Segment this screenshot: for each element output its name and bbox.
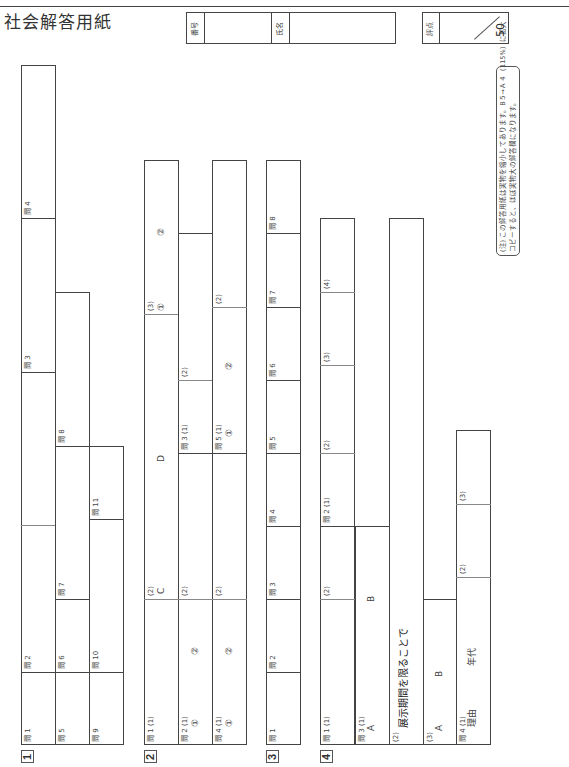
s4-q3-1-b-label: B: [367, 596, 376, 602]
s1-q10-label: 問 10: [93, 651, 100, 669]
s2-q5-2-field[interactable]: [212, 160, 247, 307]
s4-q2-2-label: (2): [324, 440, 331, 450]
s1-q4-label: 問 4: [25, 201, 32, 215]
s3-q6-label: 問 6: [270, 363, 277, 377]
s4-q3-2-label: (2): [393, 732, 400, 742]
s2-q4-2-field[interactable]: [212, 453, 247, 599]
s4-q3-1-field[interactable]: [355, 526, 390, 745]
s1-q2-field[interactable]: [21, 372, 56, 672]
s2-q5-2-label: (2): [216, 294, 223, 304]
s2-q4-1-label: 問 4 (1): [216, 716, 223, 742]
note-line-1: (注) この解答用紙は実物を縮小してあります。B５→Ａ４（115%）に拡大: [500, 21, 507, 252]
s2-q2-2-label: (2): [182, 586, 189, 596]
s2-q1-2-label: (2): [148, 586, 155, 596]
s2-q1-3-a-label: ①: [157, 303, 166, 311]
page-title: 社会解答用紙: [4, 8, 112, 33]
number-field[interactable]: [204, 12, 272, 44]
s4-q3-2-prompt: 展示期間を限ることで: [399, 628, 409, 728]
s4-q1-1-label: 問 1 (1): [324, 716, 331, 742]
s2-q2-2-field[interactable]: [178, 453, 213, 599]
number-label: 番号: [192, 22, 199, 36]
top-rule: [0, 6, 569, 7]
s2-q5-1-label: 問 5 (1): [216, 424, 223, 450]
s1-q7-field[interactable]: [55, 446, 90, 599]
s2-q5-1-a-label: ①: [225, 429, 234, 437]
s4-q4-3-label: (3): [460, 491, 467, 501]
s3-q3-label: 問 3: [270, 582, 277, 596]
s1-q1-label: 問 1: [25, 728, 32, 742]
s4-q3-3-label: (3): [427, 732, 434, 742]
s1-q10-field[interactable]: [89, 519, 124, 672]
s2-q1-2-d-label: D: [157, 455, 166, 462]
s2-q1-1-label: 問 1 (1): [148, 716, 155, 742]
s1-q3-label: 問 3: [25, 355, 32, 369]
s2-q4-1-a-label: ①: [225, 719, 234, 727]
s4-q3-3-a-label: A: [435, 725, 444, 731]
section-4-badge: 4: [320, 750, 333, 763]
s1-q8-field[interactable]: [55, 292, 90, 446]
s3-q5-label: 問 5: [270, 436, 277, 450]
s2-q1-3-label: (3): [148, 301, 155, 311]
s2-q1-2-c-label: C: [157, 588, 166, 594]
s1-q6-label: 問 6: [59, 655, 66, 669]
s3-q2-label: 問 2: [270, 655, 277, 669]
s1-q7-label: 問 7: [59, 582, 66, 596]
s1-q9-label: 問 9: [93, 728, 100, 742]
s3-q4-label: 問 4: [270, 509, 277, 523]
s4-q4-1-reason-label: 理由: [468, 709, 477, 727]
s4-q4-2-label: (2): [460, 564, 467, 574]
section-3-badge: 3: [266, 750, 279, 763]
note-line-2: コピーすると、ほぼ実物大の解答欄になります。: [510, 99, 517, 252]
s2-q3-1-label: 問 3 (1): [182, 424, 189, 450]
s1-q8-label: 問 8: [59, 429, 66, 443]
s4-q1-2-label: (2): [324, 586, 331, 596]
section-2-badge: 2: [144, 750, 157, 763]
s2-q2-1-a-label: ①: [191, 719, 200, 727]
s4-q2-1-label: 問 2 (1): [324, 497, 331, 523]
s2-q3-2-label: (2): [182, 367, 189, 377]
s1-q11-label: 問 11: [93, 498, 100, 516]
s1-q3-field[interactable]: [21, 218, 56, 372]
s4-q3-1-label: 問 3 (1): [359, 716, 366, 742]
score-label: 評点: [427, 22, 434, 36]
name-label: 氏名: [277, 22, 284, 36]
s2-q2-1-b-label: ②: [191, 647, 200, 655]
s2-q4-2-label: (2): [216, 586, 223, 596]
s4-q4-1-label: 問 4 (1): [460, 716, 467, 742]
s2-q2-1-label: 問 2 (1): [182, 716, 189, 742]
s3-q8-label: 問 8: [270, 216, 277, 230]
s3-q1-label: 問 1: [270, 728, 277, 742]
s2-q4-1-b-label: ②: [225, 647, 234, 655]
s4-q2-3-label: (3): [324, 352, 331, 362]
section-1-badge: 1: [21, 750, 34, 763]
s3-q7-label: 問 7: [270, 290, 277, 304]
s4-q4-1-era-label: 年代: [468, 648, 477, 666]
s1-q4-field[interactable]: [21, 65, 56, 218]
s2-q1-3-field[interactable]: [144, 160, 179, 314]
s2-q3-2-field[interactable]: [178, 233, 213, 380]
s2-q5-1-b-label: ②: [225, 362, 234, 370]
s4-q3-1-a-label: A: [367, 725, 376, 731]
s1-q5-label: 問 5: [59, 728, 66, 742]
s1-q2-label: 問 2: [25, 655, 32, 669]
name-field[interactable]: [289, 12, 396, 44]
s4-q2-4-label: (4): [324, 279, 331, 289]
s2-q1-3-b-label: ②: [157, 228, 166, 236]
s4-q3-3-b-label: B: [435, 671, 444, 677]
